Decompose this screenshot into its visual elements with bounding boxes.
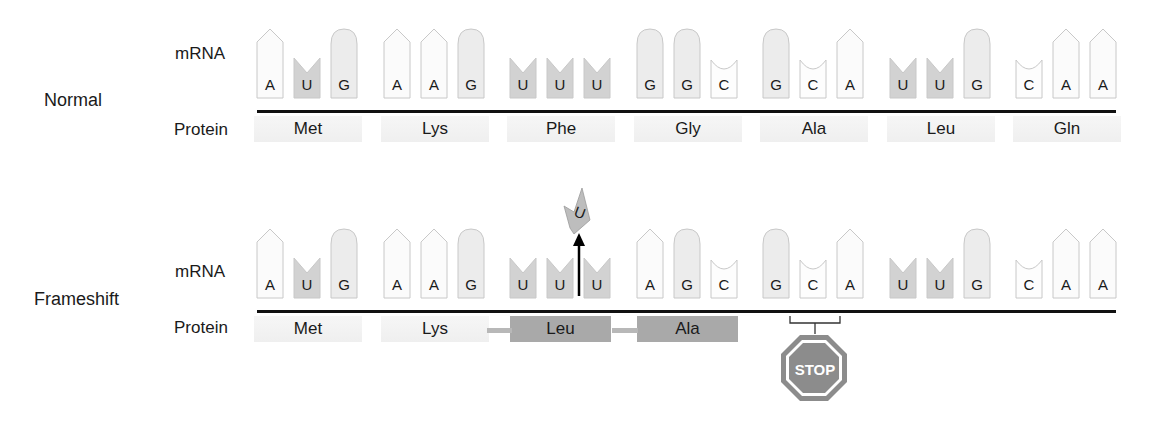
nucleotide-G: G	[963, 28, 991, 99]
amino-acid-phe: Phe	[507, 116, 615, 142]
nucleotide-C: C	[1015, 228, 1043, 299]
nucleotide-letter: G	[636, 76, 664, 93]
amino-acid-gly: Gly	[634, 116, 742, 142]
mrna-backbone-normal	[257, 110, 1116, 113]
stop-codon-indicator: STOP	[780, 312, 850, 422]
nucleotide-letter: U	[509, 276, 537, 293]
nucleotide-G: G	[457, 228, 485, 299]
nucleotide-U: U	[293, 28, 321, 99]
nucleotide-U: U	[583, 28, 611, 99]
nucleotide-A: A	[420, 28, 448, 99]
nucleotide-letter: C	[1015, 276, 1043, 293]
nucleotide-letter: U	[293, 76, 321, 93]
amino-acid-ala: Ala	[637, 316, 738, 342]
nucleotide-letter: U	[889, 76, 917, 93]
nucleotide-letter: A	[383, 76, 411, 93]
nucleotide-letter: C	[710, 76, 738, 93]
nucleotide-G: G	[330, 228, 358, 299]
nucleotide-G: G	[636, 28, 664, 99]
nucleotide-C: C	[799, 228, 827, 299]
nucleotide-letter: C	[1015, 76, 1043, 93]
amino-acid-leu: Leu	[510, 316, 611, 342]
mrna-label-normal: mRNA	[175, 44, 225, 64]
nucleotide-A: A	[836, 28, 864, 99]
nucleotide-U: U	[293, 228, 321, 299]
nucleotide-letter: G	[457, 276, 485, 293]
amino-acid-met: Met	[254, 316, 362, 342]
protein-label-normal: Protein	[174, 120, 228, 140]
protein-label-frameshift: Protein	[174, 318, 228, 338]
nucleotide-letter: A	[1052, 276, 1080, 293]
nucleotide-letter: A	[420, 276, 448, 293]
nucleotide-letter: G	[963, 76, 991, 93]
nucleotide-G: G	[673, 28, 701, 99]
nucleotide-letter: A	[1089, 276, 1117, 293]
row-label-frameshift: Frameshift	[34, 289, 119, 310]
nucleotide-G: G	[673, 228, 701, 299]
amino-acid-ala: Ala	[760, 116, 868, 142]
row-label-normal: Normal	[44, 90, 102, 111]
nucleotide-letter: A	[836, 276, 864, 293]
nucleotide-A: A	[256, 228, 284, 299]
nucleotide-U: U	[546, 28, 574, 99]
peptide-bond-lys-leu	[487, 328, 512, 333]
nucleotide-letter: G	[330, 76, 358, 93]
nucleotide-letter: U	[889, 276, 917, 293]
nucleotide-U: U	[889, 228, 917, 299]
nucleotide-letter: G	[762, 76, 790, 93]
amino-acid-lys: Lys	[381, 316, 489, 342]
nucleotide-A: A	[383, 28, 411, 99]
nucleotide-letter: G	[330, 276, 358, 293]
nucleotide-A: A	[383, 228, 411, 299]
nucleotide-letter: C	[799, 76, 827, 93]
amino-acid-gln: Gln	[1013, 116, 1121, 142]
nucleotide-letter: A	[256, 76, 284, 93]
nucleotide-letter: U	[583, 76, 611, 93]
nucleotide-A: A	[420, 228, 448, 299]
nucleotide-letter: A	[1089, 76, 1117, 93]
stop-label: STOP	[780, 361, 850, 378]
mrna-backbone-frameshift	[257, 310, 1116, 313]
amino-acid-lys: Lys	[381, 116, 489, 142]
nucleotide-C: C	[799, 28, 827, 99]
nucleotide-letter: A	[636, 276, 664, 293]
nucleotide-U: U	[926, 28, 954, 99]
nucleotide-letter: U	[926, 276, 954, 293]
nucleotide-A: A	[1089, 228, 1117, 299]
nucleotide-letter: A	[256, 276, 284, 293]
nucleotide-G: G	[762, 28, 790, 99]
nucleotide-C: C	[1015, 28, 1043, 99]
nucleotide-letter: G	[963, 276, 991, 293]
nucleotide-A: A	[836, 228, 864, 299]
nucleotide-C: C	[710, 28, 738, 99]
amino-acid-met: Met	[254, 116, 362, 142]
nucleotide-letter: G	[673, 276, 701, 293]
nucleotide-letter: U	[509, 76, 537, 93]
nucleotide-U: U	[889, 28, 917, 99]
nucleotide-A: A	[256, 28, 284, 99]
nucleotide-A: A	[1052, 228, 1080, 299]
mrna-label-frameshift: mRNA	[175, 262, 225, 282]
nucleotide-letter: A	[1052, 76, 1080, 93]
nucleotide-letter: A	[420, 76, 448, 93]
nucleotide-G: G	[762, 228, 790, 299]
nucleotide-letter: C	[710, 276, 738, 293]
nucleotide-G: G	[330, 28, 358, 99]
nucleotide-C: C	[710, 228, 738, 299]
peptide-bond-leu-ala	[612, 328, 638, 333]
insertion-marker: U	[560, 188, 600, 298]
nucleotide-letter: G	[673, 76, 701, 93]
nucleotide-A: A	[636, 228, 664, 299]
nucleotide-U: U	[509, 28, 537, 99]
nucleotide-G: G	[963, 228, 991, 299]
nucleotide-U: U	[926, 228, 954, 299]
nucleotide-A: A	[1052, 28, 1080, 99]
nucleotide-G: G	[457, 28, 485, 99]
nucleotide-letter: G	[762, 276, 790, 293]
nucleotide-A: A	[1089, 28, 1117, 99]
nucleotide-letter: A	[383, 276, 411, 293]
nucleotide-U: U	[509, 228, 537, 299]
nucleotide-letter: U	[546, 76, 574, 93]
nucleotide-letter: U	[293, 276, 321, 293]
amino-acid-leu: Leu	[887, 116, 995, 142]
